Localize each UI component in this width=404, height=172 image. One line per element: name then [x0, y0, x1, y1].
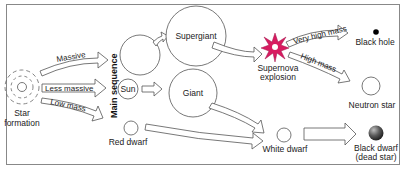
- sun-label: Sun: [120, 84, 135, 94]
- white-dwarf-label: White dwarf: [263, 144, 309, 154]
- black-hole-label: Black hole: [355, 37, 394, 47]
- star-formation-label-1: Star: [14, 108, 30, 118]
- supergiant-label: Supergiant: [175, 31, 217, 41]
- neutron-star-label: Neutron star: [349, 100, 396, 110]
- neutron-star-circle: [362, 77, 380, 95]
- star-formation-label-2: formation: [4, 118, 40, 128]
- stellar-lifecycle-diagram: Star formation Massive Less massive Low …: [0, 0, 404, 172]
- black-dwarf-sphere: [369, 126, 384, 141]
- main-sequence-label: Main sequence: [109, 53, 119, 118]
- red-dwarf-circle: [124, 121, 138, 135]
- giant-label: Giant: [183, 88, 204, 98]
- less-massive-label: Less massive: [45, 84, 94, 93]
- supernova-label-2: explosion: [260, 72, 296, 82]
- red-dwarf-label: Red dwarf: [109, 137, 148, 147]
- black-hole-dot: [373, 29, 379, 35]
- black-dwarf-label-2: (dead star): [355, 152, 396, 162]
- white-dwarf-circle: [277, 128, 291, 142]
